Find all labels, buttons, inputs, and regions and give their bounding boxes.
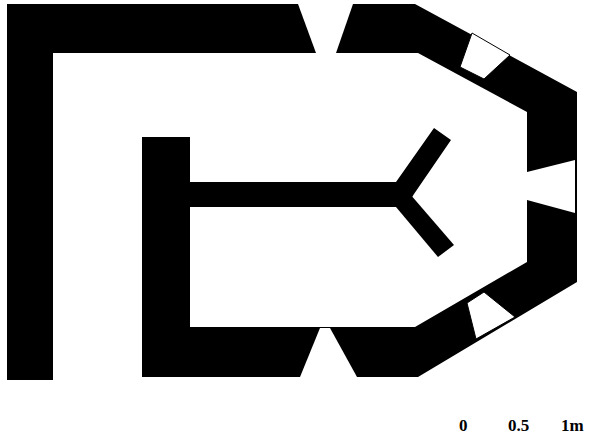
scale-label-0: 0	[459, 416, 468, 436]
y-branch-upper	[396, 128, 451, 207]
inner-pillar	[142, 137, 190, 337]
partition-wall	[188, 182, 406, 207]
y-branch-lower	[396, 194, 454, 257]
floor-plan	[0, 0, 593, 439]
scale-label-1m: 1m	[561, 416, 584, 436]
scale-label-half: 0.5	[508, 416, 529, 436]
